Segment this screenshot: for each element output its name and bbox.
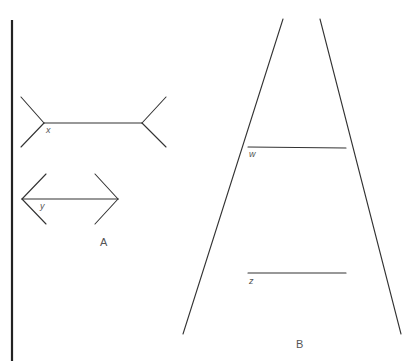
label-y: y	[39, 201, 45, 211]
panel-a-muller-lyer: x y A	[21, 97, 166, 248]
fin-y	[95, 174, 118, 199]
panel-b-ponzo: w z B	[183, 19, 401, 350]
line-w-upper	[248, 147, 346, 148]
converging-rails	[183, 19, 401, 334]
panel-b-label: B	[296, 338, 303, 350]
fin-x	[142, 97, 166, 123]
fin-x	[21, 97, 44, 123]
fin-y	[95, 199, 118, 224]
fin-x	[142, 123, 166, 147]
line-y-fins-in	[22, 174, 118, 224]
fin-x	[21, 123, 44, 147]
label-w: w	[249, 149, 256, 159]
line-x-fins-out	[21, 97, 166, 147]
rail	[183, 19, 283, 334]
panel-a-label: A	[100, 236, 108, 248]
label-z: z	[248, 276, 254, 286]
illusion-figure: x y A w z B	[0, 0, 415, 361]
label-x: x	[45, 125, 51, 135]
fin-y	[22, 174, 46, 199]
rail	[320, 19, 401, 334]
